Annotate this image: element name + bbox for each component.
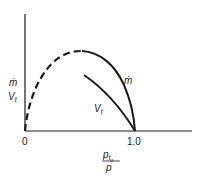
y-axis-label-mdot: ṁ — [9, 77, 17, 88]
flow-diagram: ṁ Vt ṁ Vt 0 1.0 pto p — [0, 0, 199, 178]
mdot-curve-label: ṁ — [124, 75, 132, 86]
x-tick-zero: 0 — [22, 136, 28, 147]
vt-curve-label: Vt — [94, 103, 104, 115]
x-axis-label-denominator: p — [105, 162, 112, 173]
y-axis-label-vt: Vt — [8, 91, 18, 103]
mdot-curve-dashed — [25, 51, 82, 131]
x-tick-one: 1.0 — [127, 136, 141, 147]
